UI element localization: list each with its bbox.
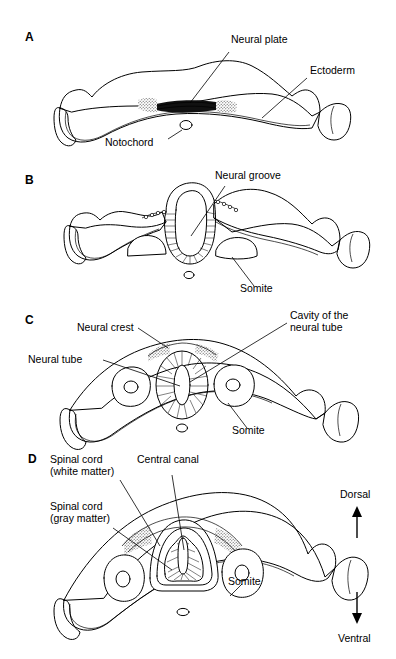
label-somite-c: Somite [232,424,265,436]
panel-b-drawing [0,160,396,300]
panel-b: B [0,160,396,300]
leader-notochord [168,130,182,139]
neural-plate-shape [156,100,216,112]
label-dorsal: Dorsal [340,488,370,500]
somite-left-core-d [116,571,130,587]
figure-canvas: A [0,0,396,659]
label-neural-groove: Neural groove [215,169,281,181]
neural-crest-patches-c [148,343,219,362]
panel-a: A [0,0,396,160]
panel-c: C [0,300,396,450]
label-ectoderm: Ectoderm [310,64,355,76]
label-cavity-of-neural-tube-line2: neural tube [290,321,343,333]
label-notochord: Notochord [105,136,153,148]
leader-neural-plate [190,52,229,103]
label-neural-tube: Neural tube [28,353,82,365]
notochord-shape-d [177,608,189,615]
dorsal-arrow-icon [346,502,386,542]
panel-d: D [0,450,396,659]
label-somite-b: Somite [240,282,273,294]
spinal-cord-shape [150,520,218,591]
label-spinal-cord-gray-matter-line1: Spinal cord [50,500,103,512]
somite-left-b [128,236,166,257]
panel-d-drawing [0,450,396,659]
somite-left-core-c [124,381,138,393]
notochord-shape-c [177,424,188,432]
somite-right-b [216,238,257,260]
ventral-arrow-icon [346,590,386,630]
neural-tube-shape [156,351,208,419]
label-ventral: Ventral [338,632,371,644]
label-neural-plate: Neural plate [231,33,288,45]
label-central-canal: Central canal [137,453,199,465]
label-spinal-cord-white-matter-line2: (white matter) [50,465,114,477]
label-neural-crest: Neural crest [77,321,134,333]
notochord-shape [180,121,192,130]
label-cavity-of-neural-tube-line1: Cavity of the [290,309,348,321]
somite-right-core-c [226,379,240,391]
label-spinal-cord-white-matter-line1: Spinal cord [50,453,103,465]
label-spinal-cord-gray-matter-line2: (gray matter) [50,512,110,524]
notochord-shape-b [184,271,194,278]
panel-a-drawing [0,0,396,160]
label-somite-d: Somite [228,575,261,587]
leader-ectoderm [262,78,307,118]
